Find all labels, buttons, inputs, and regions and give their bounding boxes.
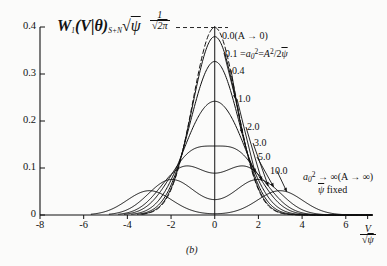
y-tick-label: 0.3 bbox=[8, 68, 36, 79]
y-axis-title: W1(V|θ)S+N√ψ bbox=[57, 18, 141, 34]
x-tick-label: -8 bbox=[31, 220, 49, 231]
y-axis-W: W bbox=[57, 17, 71, 34]
x-tick-label: 0 bbox=[206, 220, 224, 231]
figure-caption: (b) bbox=[186, 245, 198, 255]
peak-denominator: √2π bbox=[150, 21, 170, 31]
curve-label-0.1: 0.1 =a02=A2/2ψ bbox=[225, 48, 288, 61]
y-tick-label: 0 bbox=[8, 209, 36, 220]
curve-label-1.0: 1.0 bbox=[238, 94, 251, 104]
x-tick-label: -6 bbox=[75, 220, 93, 231]
peak-fraction: 1 √2π bbox=[150, 10, 170, 31]
x-axis-den-sym: ψ bbox=[368, 234, 374, 245]
psi-fixed-symbol: ψ bbox=[318, 184, 324, 195]
curve-label-5.0: 5.0 bbox=[258, 152, 271, 162]
x-tick-label: 2 bbox=[249, 220, 267, 231]
curve-label-10.0: 10.0 bbox=[270, 166, 288, 176]
param-prefix: 0.1 = bbox=[225, 48, 246, 59]
y-axis-theta: θ bbox=[95, 17, 103, 34]
limit-arrow-text: → ∞(A → ∞) bbox=[318, 171, 373, 182]
x-tick-label: -4 bbox=[118, 220, 136, 231]
x-tick-label: 4 bbox=[293, 220, 311, 231]
x-axis-fraction: V √ψ bbox=[360, 224, 376, 245]
psi-fixed-text: fixed bbox=[327, 184, 348, 195]
psi-fixed-annotation: ψ fixed bbox=[318, 185, 347, 195]
y-axis-V: V bbox=[80, 17, 91, 34]
limit-infinity-annotation: a02 → ∞(A → ∞) bbox=[303, 171, 373, 184]
peak-reference-label: 1 √2π bbox=[150, 10, 170, 31]
curve-label-0.4: 0.4 bbox=[232, 66, 245, 76]
limit-a0-sup: 2 bbox=[312, 170, 316, 179]
x-axis-denominator: √ψ bbox=[360, 235, 376, 245]
y-tick-label: 0.1 bbox=[8, 162, 36, 173]
curve-label-2.0: 2.0 bbox=[247, 122, 260, 132]
y-tick-label: 0.2 bbox=[8, 115, 36, 126]
curve-label-0.0: 0.0(A → 0) bbox=[222, 31, 268, 41]
x-axis-title: V √ψ bbox=[360, 224, 376, 245]
param-psi: ψ bbox=[281, 48, 287, 59]
figure-container: W1(V|θ)S+N√ψ 1 √2π 0.0(A → 0) 0.1 =a02=A… bbox=[0, 0, 387, 266]
x-tick-label: 6 bbox=[337, 220, 355, 231]
y-tick-label: 0.4 bbox=[8, 21, 36, 32]
y-axis-psi: ψ bbox=[131, 17, 141, 34]
peak-den-text: 2π bbox=[158, 20, 168, 31]
x-tick-label: -2 bbox=[162, 220, 180, 231]
y-axis-sn-sub: S+N bbox=[108, 26, 122, 35]
y-axis-radical: √ bbox=[122, 17, 131, 34]
plot-canvas bbox=[0, 0, 387, 266]
curve-label-3.0: 3.0 bbox=[254, 138, 267, 148]
